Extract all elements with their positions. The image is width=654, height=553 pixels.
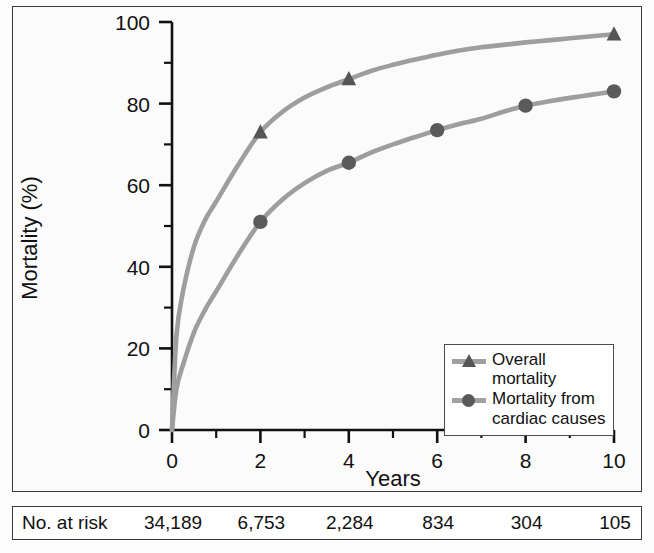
y-axis-title: Mortality (%) xyxy=(17,148,43,328)
y-axis-ticks xyxy=(159,22,172,430)
legend-entry-cardiac-mortality: Mortality fromcardiac causes xyxy=(452,389,606,427)
legend-label-overall-mortality: Overall mortality xyxy=(492,350,606,388)
y-tick-label: 0 xyxy=(42,420,150,441)
x-axis-title: Years xyxy=(172,466,614,492)
numbers-at-risk-table: No. at risk 34,1896,7532,284834304105 xyxy=(12,506,642,540)
y-tick-label: 40 xyxy=(42,256,150,277)
chart-legend: Overall mortality Mortality fromcardiac … xyxy=(444,344,614,436)
numbers-at-risk-value: 6,753 xyxy=(238,512,286,534)
y-tick-label: 80 xyxy=(42,93,150,114)
legend-label-cardiac-mortality: Mortality fromcardiac causes xyxy=(492,389,605,427)
legend-label-cardiac-line1: Mortality from xyxy=(492,389,595,408)
legend-label-cardiac-line2: cardiac causes xyxy=(492,409,605,428)
numbers-at-risk-value: 34,189 xyxy=(144,512,202,534)
y-tick-label: 100 xyxy=(42,12,150,33)
figure-container: 020406080100 0246810 Mortality (%) Years… xyxy=(0,0,654,553)
legend-entry-overall-mortality: Overall mortality xyxy=(452,350,606,388)
y-tick-label: 20 xyxy=(42,338,150,359)
numbers-at-risk-value: 834 xyxy=(422,512,454,534)
triangle-marker-icon xyxy=(452,351,486,370)
numbers-at-risk-value: 105 xyxy=(599,512,631,534)
numbers-at-risk-label: No. at risk xyxy=(22,512,108,534)
numbers-at-risk-value: 2,284 xyxy=(326,512,374,534)
circle-marker-icon xyxy=(452,390,486,409)
y-tick-label: 60 xyxy=(42,175,150,196)
numbers-at-risk-value: 304 xyxy=(511,512,543,534)
